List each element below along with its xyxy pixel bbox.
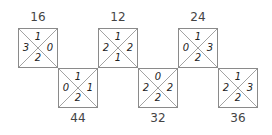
square-3-label: 12 xyxy=(98,11,138,23)
square-2-label: 44 xyxy=(58,112,98,124)
triangle-right-value: 2 xyxy=(164,83,176,93)
triangle-right-value: 1 xyxy=(84,83,96,93)
triangle-top-value: 1 xyxy=(192,32,204,42)
puzzle-square-5: 1 0 3 2 xyxy=(178,28,218,68)
triangle-left-value: 3 xyxy=(20,43,32,53)
triangle-left-value: 2 xyxy=(100,43,112,53)
triangle-right-value: 3 xyxy=(204,43,216,53)
puzzle-square-3: 1 2 2 1 xyxy=(98,28,138,68)
triangle-left-value: 2 xyxy=(140,83,152,93)
triangle-top-value: 1 xyxy=(32,32,44,42)
puzzle-square-4: 0 2 2 2 xyxy=(138,68,178,108)
puzzle-square-6: 1 2 3 2 xyxy=(218,68,258,108)
triangle-left-value: 0 xyxy=(60,83,72,93)
triangle-bottom-value: 1 xyxy=(112,53,124,63)
triangle-bottom-value: 2 xyxy=(72,93,84,103)
triangle-bottom-value: 2 xyxy=(192,53,204,63)
triangle-left-value: 2 xyxy=(220,83,232,93)
triangle-bottom-value: 2 xyxy=(152,93,164,103)
number-square-puzzle: 1 3 0 2 16 1 0 1 2 44 1 2 2 1 12 xyxy=(0,0,272,135)
square-4-label: 32 xyxy=(138,112,178,124)
triangle-bottom-value: 2 xyxy=(232,93,244,103)
triangle-top-value: 1 xyxy=(232,72,244,82)
triangle-right-value: 2 xyxy=(124,43,136,53)
triangle-right-value: 3 xyxy=(244,83,256,93)
square-1-label: 16 xyxy=(18,11,58,23)
triangle-right-value: 0 xyxy=(44,43,56,53)
triangle-bottom-value: 2 xyxy=(32,53,44,63)
square-5-label: 24 xyxy=(178,11,218,23)
triangle-left-value: 0 xyxy=(180,43,192,53)
triangle-top-value: 0 xyxy=(152,72,164,82)
triangle-top-value: 1 xyxy=(112,32,124,42)
puzzle-square-1: 1 3 0 2 xyxy=(18,28,58,68)
puzzle-square-2: 1 0 1 2 xyxy=(58,68,98,108)
square-6-label: 36 xyxy=(218,112,258,124)
triangle-top-value: 1 xyxy=(72,72,84,82)
